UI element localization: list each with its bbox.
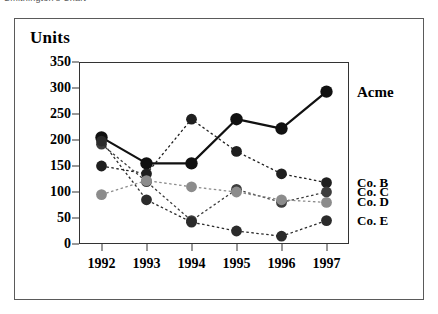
document-title: Smithington's Chart [4,0,86,3]
x-axis-tick-mark [326,244,327,251]
y-axis-tick-mark [72,88,79,89]
y-axis-tick-label: 0 [27,236,71,252]
x-axis-tick-mark [146,244,147,251]
y-axis-tick-mark [72,218,79,219]
x-axis-tick-label: 1996 [268,256,296,272]
x-axis-tick-mark [236,244,237,251]
x-axis-tick-label: 1993 [133,256,161,272]
y-axis-tick-label: 300 [27,80,71,96]
y-axis-tick-mark [72,62,79,63]
y-axis-tick-label: 100 [27,184,71,200]
y-axis-tick-mark [72,140,79,141]
y-axis-tick-mark [72,244,79,245]
y-axis-tick-label: 250 [27,106,71,122]
x-axis-tick-mark [191,244,192,251]
y-axis-tick-label: 200 [27,132,71,148]
x-axis-tick-label: 1992 [88,256,116,272]
legend-label-co-d: Co. D [357,194,389,210]
x-axis-tick-label: 1995 [223,256,251,272]
legend-label-acme: Acme [357,83,394,100]
legend-label-co-e: Co. E [357,213,388,229]
x-axis-tick-label: 1997 [313,256,341,272]
plot-area [79,62,349,244]
y-axis-tick-label: 50 [27,210,71,226]
y-axis-tick-label: 150 [27,158,71,174]
y-axis-tick-mark [72,166,79,167]
x-axis-tick-label: 1994 [178,256,206,272]
x-axis-tick-mark [281,244,282,251]
x-axis-tick-mark [101,244,102,251]
y-axis-tick-mark [72,114,79,115]
y-axis-title: Units [30,28,70,48]
y-axis-tick-label: 350 [27,54,71,70]
y-axis-tick-mark [72,192,79,193]
